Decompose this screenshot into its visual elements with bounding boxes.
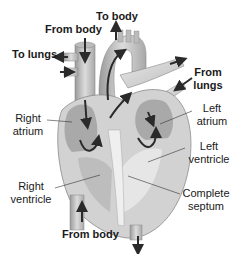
label-to-body: To body <box>96 10 138 23</box>
label-from-body-bottom: From body <box>62 228 119 241</box>
label-right-atrium-line2: atrium <box>8 125 48 138</box>
label-right-ventricle-line2: ventricle <box>6 193 56 206</box>
label-left-ventricle-line1: Left <box>184 140 234 153</box>
label-left-ventricle-line2: ventricle <box>184 153 234 166</box>
label-to-lungs: To lungs <box>12 48 57 61</box>
heart-diagram: To body From body To lungs From lungs Fr… <box>0 0 236 254</box>
label-right-atrium-line1: Right <box>8 112 48 125</box>
label-right-ventricle-line1: Right <box>6 180 56 193</box>
label-from-lungs-line1: From <box>190 66 226 79</box>
label-from-body-top: From body <box>45 23 102 36</box>
label-complete-septum: Complete septum <box>180 187 232 213</box>
label-right-ventricle: Right ventricle <box>6 180 56 206</box>
label-right-atrium: Right atrium <box>8 112 48 138</box>
label-from-lungs-line2: lungs <box>190 79 226 92</box>
label-from-lungs: From lungs <box>190 66 226 92</box>
label-complete-septum-line2: septum <box>180 200 232 213</box>
label-left-atrium-line2: atrium <box>192 115 232 128</box>
label-complete-septum-line1: Complete <box>180 187 232 200</box>
label-left-ventricle: Left ventricle <box>184 140 234 166</box>
label-left-atrium-line1: Left <box>192 102 232 115</box>
label-left-atrium: Left atrium <box>192 102 232 128</box>
